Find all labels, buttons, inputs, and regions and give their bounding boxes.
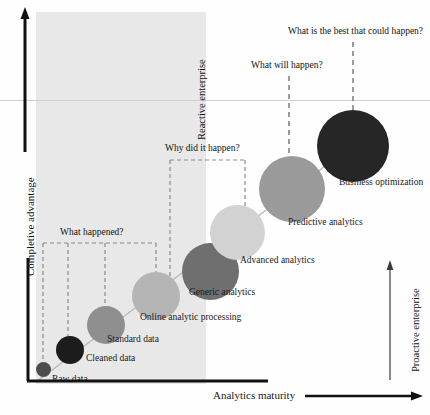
bubble-label-advanced-analytics: Advanced analytics — [240, 255, 315, 265]
zone-label-proactive-enterprise: Proactive enterprise — [410, 288, 421, 372]
bubble-cleaned-data[interactable] — [56, 336, 84, 364]
bubble-predictive-analytics[interactable] — [259, 156, 325, 222]
bubble-raw-data[interactable] — [36, 362, 51, 377]
bubble-label-cleaned-data: Cleaned data — [86, 353, 135, 363]
zone-label-reactive-enterprise: Reactive enterprise — [196, 59, 207, 140]
y-axis-arrow — [21, 7, 30, 152]
bubble-label-predictive-analytics: Predictive analytics — [288, 217, 363, 227]
bubble-business-optimization[interactable] — [317, 110, 389, 182]
x-axis-label: Analytics maturity — [213, 389, 295, 401]
callout-label-what-is-the-best: What is the best that could happen? — [288, 26, 423, 36]
y-axis-label: Completive advantage — [24, 177, 36, 276]
x-axis-arrow — [305, 392, 423, 401]
callout-label-what-happened: What happened? — [60, 227, 124, 237]
bubble-advanced-analytics[interactable] — [210, 205, 265, 260]
callout-label-what-will-happen: What will happen? — [251, 60, 323, 70]
bubble-label-raw-data: Raw data — [52, 374, 88, 384]
bubble-label-standard-data: Standard data — [107, 334, 159, 344]
proactive-zone-arrow — [387, 260, 394, 380]
bubble-label-generic-analytics: Generic analytics — [189, 287, 255, 297]
analytics-maturity-diagram: Raw data Cleaned data Standard data Onli… — [0, 0, 430, 415]
callout-label-why-did-it-happen: Why did it happen? — [165, 143, 240, 153]
bubble-label-online-analytic-processing: Online analytic processing — [140, 312, 241, 322]
bubble-label-business-optimization: Business optimization — [339, 177, 423, 187]
